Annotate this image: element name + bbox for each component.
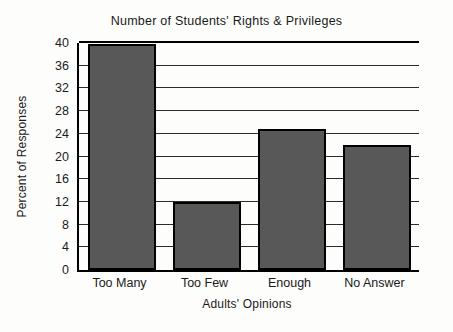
x-axis-label: Adults' Opinions <box>77 297 417 311</box>
y-axis-tick-label: 36 <box>9 60 69 73</box>
bar <box>258 129 326 270</box>
y-axis-tick-label: 28 <box>9 105 69 118</box>
x-axis-tick-label: Too Many <box>77 276 162 290</box>
y-axis-tick-label: 32 <box>9 82 69 95</box>
bar <box>343 145 411 270</box>
y-axis-tick-label: 0 <box>9 264 69 277</box>
y-axis-tick-label: 20 <box>9 151 69 164</box>
x-axis-tick-label: Too Few <box>162 276 247 290</box>
bar <box>88 44 156 270</box>
chart-title: Number of Students' Rights & Privileges <box>0 14 453 28</box>
x-axis-tick-label: No Answer <box>332 276 417 290</box>
gridline <box>79 41 419 43</box>
y-axis-tick-label: 8 <box>9 219 69 232</box>
bar-chart: Number of Students' Rights & Privileges … <box>0 0 453 332</box>
y-axis-tick-label: 24 <box>9 128 69 141</box>
y-axis-tick-label: 12 <box>9 196 69 209</box>
y-axis-tick-label: 16 <box>9 173 69 186</box>
plot-area <box>77 43 419 272</box>
x-axis-tick-label: Enough <box>247 276 332 290</box>
bar <box>173 202 241 270</box>
y-axis-tick-label: 40 <box>9 37 69 50</box>
y-axis-tick-label: 4 <box>9 241 69 254</box>
